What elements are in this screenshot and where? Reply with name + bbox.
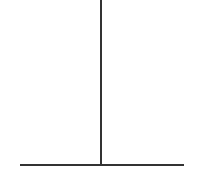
horizontal-line xyxy=(20,164,184,166)
vertical-line xyxy=(100,0,102,165)
